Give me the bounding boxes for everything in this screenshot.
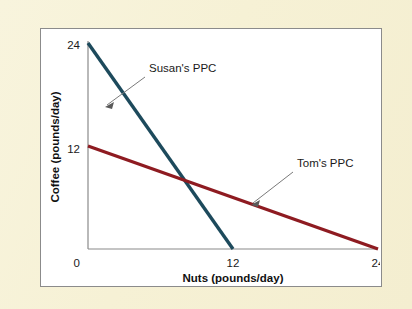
y-tick-label-0: 0: [74, 257, 80, 269]
chart-panel: 24 12 0 12 24 Susan's PPC Tom's PPC: [40, 28, 382, 287]
annotation-susan: Susan's PPC: [105, 62, 216, 109]
susan-ppc-label: Susan's PPC: [149, 62, 216, 74]
x-tick-label-12: 12: [227, 257, 240, 269]
tom-ppc-label: Tom's PPC: [297, 157, 354, 169]
y-tick-label-12: 12: [67, 143, 80, 155]
y-axis-title: Coffee (pounds/day): [49, 91, 61, 202]
ppc-chart-svg: 24 12 0 12 24 Susan's PPC Tom's PPC: [41, 29, 380, 285]
x-tick-label-24: 24: [372, 257, 380, 269]
figure-root: 24 12 0 12 24 Susan's PPC Tom's PPC: [0, 0, 412, 309]
annotation-tom: Tom's PPC: [251, 157, 354, 207]
susan-leader-line: [107, 77, 145, 105]
x-axis-title: Nuts (pounds/day): [183, 272, 284, 284]
y-tick-label-24: 24: [67, 39, 80, 51]
tom-leader-line: [253, 172, 293, 203]
